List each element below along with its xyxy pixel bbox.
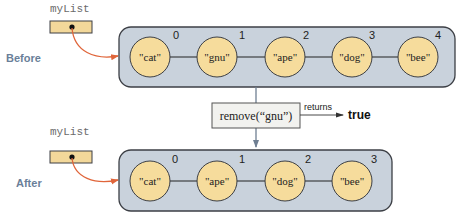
- node-value: "dog": [272, 175, 297, 187]
- node-index: 0: [173, 29, 179, 41]
- return-value: true: [348, 108, 371, 122]
- list-remove-diagram: myList Before "cat" 0 "gnu" 1 "ape" 2 "d…: [0, 0, 460, 219]
- after-state-label: After: [16, 177, 42, 189]
- returns-label: returns: [304, 102, 333, 112]
- node-index: 4: [435, 29, 441, 41]
- before-variable-label: myList: [50, 3, 90, 15]
- node-index: 1: [239, 29, 245, 41]
- node-index: 2: [305, 153, 311, 165]
- node-value: "cat": [139, 175, 161, 187]
- after-variable-label: myList: [50, 126, 90, 138]
- node-value: "bee": [406, 51, 430, 63]
- node-index: 1: [239, 153, 245, 165]
- before-section: myList Before "cat" 0 "gnu" 1 "ape" 2 "d…: [6, 3, 455, 87]
- after-section: myList After "cat" 0 "ape" 1 "dog" 2 "be…: [16, 126, 392, 211]
- node-value: "ape": [205, 175, 229, 187]
- node-value: "bee": [340, 175, 364, 187]
- node-index: 3: [371, 153, 377, 165]
- remove-call-label: remove(“gnu”): [220, 109, 293, 123]
- node-value: "cat": [139, 51, 161, 63]
- node-value: "dog": [339, 51, 364, 63]
- operation-section: remove(“gnu”) returns true: [212, 87, 371, 147]
- node-index: 0: [172, 153, 178, 165]
- node-index: 2: [303, 29, 309, 41]
- node-value: "ape": [273, 51, 297, 63]
- before-state-label: Before: [6, 52, 41, 64]
- node-value: "gnu": [204, 51, 229, 63]
- node-index: 3: [369, 29, 375, 41]
